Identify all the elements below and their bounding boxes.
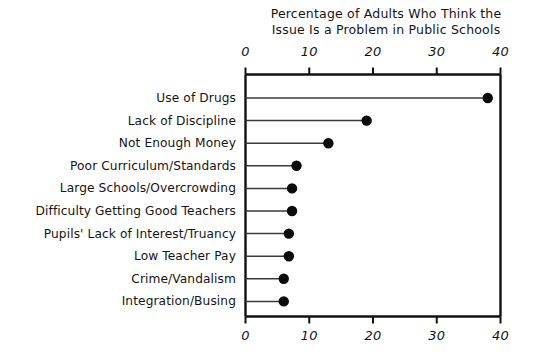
- data-series: [246, 93, 493, 307]
- axis-tick-marks: [246, 68, 501, 324]
- data-point: [279, 274, 289, 284]
- data-point: [483, 93, 493, 103]
- data-point: [287, 206, 297, 216]
- plot-area: [0, 0, 536, 361]
- data-point: [284, 251, 294, 261]
- data-point: [284, 228, 294, 238]
- data-point: [287, 183, 297, 193]
- data-point: [279, 296, 289, 306]
- lollipop-chart: Percentage of Adults Who Think the Issue…: [0, 0, 536, 361]
- data-point: [361, 115, 371, 125]
- data-point: [291, 161, 301, 171]
- data-point: [323, 138, 333, 148]
